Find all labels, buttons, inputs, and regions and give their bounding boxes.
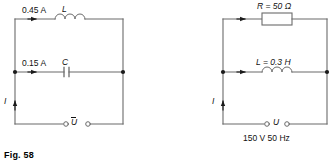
capacitor-component-label: C xyxy=(62,58,68,67)
junction-dot-left-2 xyxy=(221,70,225,74)
inductor-coil-symbol-left xyxy=(55,14,85,19)
junction-dot-left xyxy=(13,70,17,74)
right-circuit-wires xyxy=(223,13,327,124)
inductor-branch-current-label: 0.45 A xyxy=(22,6,46,15)
junction-dot-right xyxy=(121,70,125,74)
overbar-mark xyxy=(71,117,76,118)
source-terminal-right-2 xyxy=(285,122,290,127)
figure-caption: Fig. 58 xyxy=(4,150,34,160)
inductor-component-label-2: L = 0.3 H xyxy=(256,58,291,67)
source-terminal-left xyxy=(64,122,69,127)
source-voltage-text: U xyxy=(71,117,77,127)
total-current-label: I xyxy=(4,97,6,106)
left-circuit-wires xyxy=(15,14,123,124)
inductor-coil-symbol-right xyxy=(262,67,292,72)
source-terminal-right xyxy=(86,122,91,127)
inductor-component-label: L xyxy=(62,5,67,14)
total-current-label-2: I xyxy=(212,97,214,106)
capacitor-branch-current-label: 0.15 A xyxy=(22,59,46,68)
source-voltage-label: U xyxy=(71,118,77,127)
resistor-component-label: R = 50 Ω xyxy=(257,2,291,11)
figure-container: 0.45 A L 0.15 A C I U R = 50 Ω L = 0.3 H… xyxy=(0,0,330,163)
resistor-symbol xyxy=(262,13,292,25)
source-terminal-left-2 xyxy=(265,122,270,127)
junction-dot-right-2 xyxy=(325,70,329,74)
source-voltage-label-2: U xyxy=(273,118,279,127)
source-rating-label: 150 V 50 Hz xyxy=(243,134,290,143)
